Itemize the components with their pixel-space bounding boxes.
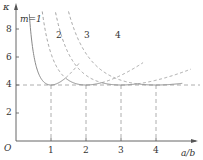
curve-group <box>29 11 191 85</box>
y-tick-label-6: 6 <box>6 53 12 62</box>
series-label-m1: m=1 <box>20 15 42 24</box>
x-axis-arrow-icon <box>191 139 198 143</box>
x-axis-label: a/b <box>181 149 195 158</box>
curve-m1-dashed-right <box>66 63 80 78</box>
curve-m1-envelope <box>29 14 65 85</box>
y-axis-label: κ <box>3 2 10 12</box>
y-tick-label-2: 2 <box>6 108 12 117</box>
y-tick-label-8: 8 <box>6 25 12 34</box>
x-tick-label-3: 3 <box>118 146 124 155</box>
curve-m3-dashed-right <box>137 69 191 84</box>
curve-m2-dashed-left <box>42 11 65 77</box>
series-label-m4: 4 <box>115 31 121 40</box>
curve-m2-envelope <box>66 78 102 85</box>
y-axis-arrow-icon <box>14 3 18 10</box>
curve-m3-dashed-left <box>56 12 102 82</box>
buckling-coefficient-chart <box>0 0 203 160</box>
x-tick-label-2: 2 <box>83 146 89 155</box>
origin-label: O <box>4 144 11 153</box>
curve-m2-dashed-right <box>102 63 143 83</box>
x-tick-label-4: 4 <box>153 146 159 155</box>
y-tick-label-4: 4 <box>6 80 12 89</box>
x-tick-label-1: 1 <box>48 146 54 155</box>
curve-m4-envelope <box>137 83 182 85</box>
series-label-m3: 3 <box>84 31 90 40</box>
guide-lines <box>16 85 200 141</box>
curve-m4-dashed-left <box>69 11 138 83</box>
series-label-m2: 2 <box>56 31 62 40</box>
